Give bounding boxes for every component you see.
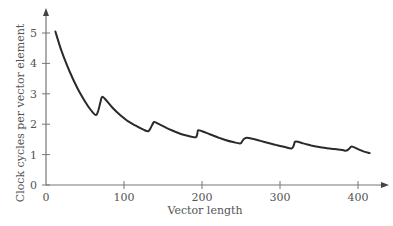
- y-tick-label: 1: [30, 149, 37, 162]
- x-tick-label: 400: [348, 191, 369, 204]
- x-axis-arrow-icon: [381, 182, 389, 188]
- y-tick-label: 2: [30, 118, 37, 131]
- x-tick-label: 300: [270, 191, 291, 204]
- axes: [43, 8, 389, 188]
- y-tick-label: 5: [30, 27, 37, 40]
- y-tick-label: 4: [30, 57, 37, 70]
- x-tick-label: 100: [114, 191, 135, 204]
- y-ticks: 012345: [30, 27, 50, 192]
- x-tick-label: 200: [192, 191, 213, 204]
- x-axis-label: Vector length: [166, 204, 242, 217]
- y-tick-label: 3: [30, 88, 37, 101]
- y-axis-arrow-icon: [43, 8, 49, 16]
- y-tick-label: 0: [30, 179, 37, 192]
- x-tick-label: 0: [43, 191, 50, 204]
- y-axis-label: Clock cycles per vector element: [14, 23, 27, 202]
- data-line: [55, 32, 369, 154]
- line-chart: 0100200300400 012345 Vector length Clock…: [0, 0, 393, 226]
